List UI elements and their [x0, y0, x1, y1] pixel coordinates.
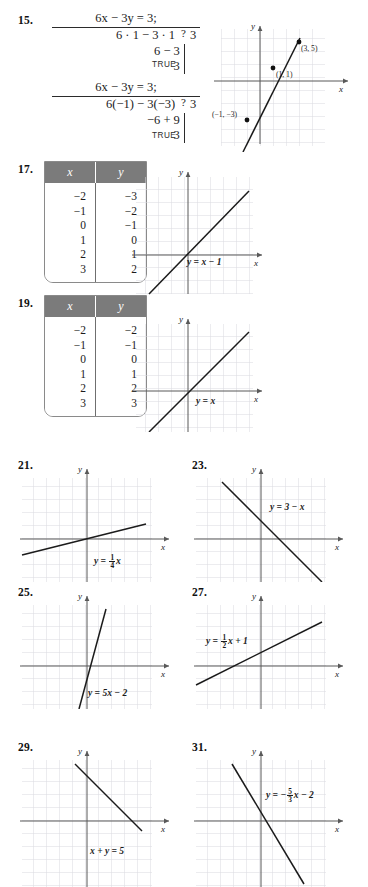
table-row: 0−1 — [45, 218, 146, 233]
equation-label-21: y = 14x — [94, 554, 121, 570]
check-lhs: 6(−1) − 3(−3) — [52, 97, 179, 112]
point-label: (3, 5) — [301, 44, 317, 53]
svg-text:y: y — [251, 591, 256, 601]
svg-text:x: x — [334, 669, 339, 679]
fraction: 14 — [109, 554, 115, 570]
svg-text:y: y — [251, 746, 256, 756]
check-lhs: 6 · 1 − 3 · 1 — [52, 28, 179, 43]
svg-text:x: x — [253, 394, 258, 404]
check-operator: ? — [179, 96, 188, 109]
check-divider — [184, 59, 185, 74]
equation-label-17: y = x − 1 — [187, 257, 221, 267]
verdict-true-15a: TRUE — [152, 60, 176, 69]
verdict-true-15b: TRUE — [152, 131, 176, 140]
check-lhs: 6 − 3 — [52, 44, 184, 59]
svg-text:x: x — [160, 542, 165, 552]
point-label: (−1, −3) — [212, 110, 237, 119]
equation-label-23: y = 3 − x — [270, 502, 304, 512]
graph-29: x y x + y = 5 — [20, 742, 180, 887]
graph-15: x y (3, 5) (1, 1) (−1, −3) — [208, 12, 358, 152]
table-header-x: x — [45, 162, 96, 183]
table-row: −1−1 — [45, 338, 146, 353]
svg-text:x: x — [334, 542, 339, 552]
svg-text:x: x — [253, 258, 258, 268]
graph-21: x y y = 14x — [20, 460, 180, 582]
svg-text:x: x — [160, 824, 165, 834]
equation-label-31: y = −53x − 2 — [266, 788, 314, 804]
svg-text:y: y — [77, 746, 82, 756]
graph-27: x y y = 12x + 1 — [194, 587, 354, 709]
table-row: 00 — [45, 352, 146, 367]
graph-17: x y y = x − 1 — [132, 163, 268, 295]
check-divider — [184, 113, 185, 128]
svg-text:y: y — [250, 21, 255, 31]
table-row: −1−2 — [45, 204, 146, 219]
table-row: −2−3 — [45, 189, 146, 204]
equation-label-27: y = 12x + 1 — [206, 634, 248, 650]
graph-25: x y y = 5x − 2 — [20, 587, 180, 709]
problem-number-19: 19. — [18, 297, 33, 309]
table-row: 22 — [45, 381, 146, 396]
graph-23: x y y = 3 − x — [194, 460, 354, 582]
table-row: 33 — [45, 396, 146, 411]
problem-number-15: 15. — [18, 14, 33, 26]
check-operator: ? — [179, 27, 188, 40]
check-equation: 6x − 3y = 3; — [52, 11, 200, 28]
fraction: 12 — [221, 634, 227, 650]
svg-text:y: y — [178, 167, 183, 177]
point-label: (1, 1) — [276, 70, 292, 79]
check-work-15a: 6x − 3y = 3; 6 · 1 − 3 · 1 ? 3 6 − 3 3 — [52, 11, 200, 74]
svg-text:y: y — [178, 314, 183, 324]
problem-number-17: 17. — [18, 163, 33, 175]
answer-key-page: 15. 6x − 3y = 3; 6 · 1 − 3 · 1 ? 3 6 − 3… — [0, 0, 368, 887]
table-header-x: x — [45, 296, 96, 317]
check-lhs: −6 + 9 — [52, 113, 184, 128]
equation-label-29: x + y = 5 — [90, 846, 124, 856]
svg-text:y: y — [251, 464, 256, 474]
graph-31: x y y = −53x − 2 — [194, 742, 354, 887]
check-divider — [184, 128, 185, 143]
table-row: 11 — [45, 367, 146, 382]
check-work-15b: 6x − 3y = 3; 6(−1) − 3(−3) ? 3 −6 + 9 3 — [52, 80, 200, 143]
equation-label-19: y = x — [196, 396, 215, 406]
table-row: 21 — [45, 247, 146, 262]
check-rhs: 3 — [188, 28, 200, 43]
svg-text:x: x — [160, 669, 165, 679]
svg-text:y: y — [77, 464, 82, 474]
check-rhs: 3 — [188, 97, 200, 112]
fraction: 53 — [287, 788, 293, 804]
table-row: −2−2 — [45, 323, 146, 338]
table-row: 32 — [45, 262, 146, 277]
check-body: 6(−1) − 3(−3) ? 3 −6 + 9 3 — [52, 97, 200, 143]
table-row: 10 — [45, 233, 146, 248]
check-equation: 6x − 3y = 3; — [52, 80, 200, 97]
graph-19: x y y = x — [132, 310, 268, 432]
svg-text:y: y — [77, 591, 82, 601]
equation-label-25: y = 5x − 2 — [88, 688, 127, 698]
svg-text:x: x — [338, 84, 343, 94]
check-divider — [184, 44, 185, 59]
check-body: 6 · 1 − 3 · 1 ? 3 6 − 3 3 — [52, 28, 200, 74]
svg-text:x: x — [334, 824, 339, 834]
